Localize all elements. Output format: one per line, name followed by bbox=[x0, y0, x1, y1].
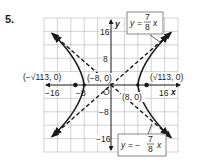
svg-text:=: = bbox=[137, 18, 142, 28]
tick-y-8: 8 bbox=[103, 54, 108, 64]
tick-x-16: 16 bbox=[159, 88, 169, 98]
axes bbox=[46, 20, 180, 150]
svg-text:7: 7 bbox=[145, 12, 150, 22]
tick-y-neg16: −16 bbox=[96, 134, 111, 144]
label-focus-left: (−√113, 0) bbox=[23, 72, 61, 82]
svg-text:y: y bbox=[120, 140, 126, 150]
label-vertex-left: (−8, 0) bbox=[87, 73, 112, 83]
tick-x-neg8: −8 bbox=[76, 88, 86, 98]
svg-text:y: y bbox=[129, 18, 135, 28]
callout-asymptote-negative: y = − 7 8 x bbox=[118, 124, 166, 156]
svg-text:= −: = − bbox=[128, 140, 140, 150]
tick-x-neg16: −16 bbox=[45, 88, 60, 98]
y-axis-label: y bbox=[114, 19, 121, 29]
vertex-right-dot bbox=[136, 83, 140, 87]
x-axis-label: x bbox=[170, 87, 177, 97]
svg-text:x: x bbox=[152, 18, 158, 28]
label-vertex-right: (8, 0) bbox=[122, 92, 142, 102]
label-focus-right: (√113, 0) bbox=[150, 72, 183, 82]
svg-text:8: 8 bbox=[148, 144, 153, 154]
svg-text:7: 7 bbox=[148, 134, 153, 144]
origin-marker: O bbox=[103, 87, 110, 97]
svg-text:8: 8 bbox=[145, 22, 150, 32]
callout-asymptote-positive: y = 7 8 x bbox=[127, 12, 163, 42]
hyperbola-chart: O y x 16 8 −8 −16 −16 −8 16 (−√113, 0) (… bbox=[0, 0, 200, 166]
svg-text:x: x bbox=[156, 140, 162, 150]
tick-y-neg8: −8 bbox=[99, 107, 109, 117]
vertex-left-dot bbox=[82, 83, 86, 87]
tick-y-16: 16 bbox=[100, 27, 110, 37]
focus-right-dot bbox=[144, 83, 149, 88]
